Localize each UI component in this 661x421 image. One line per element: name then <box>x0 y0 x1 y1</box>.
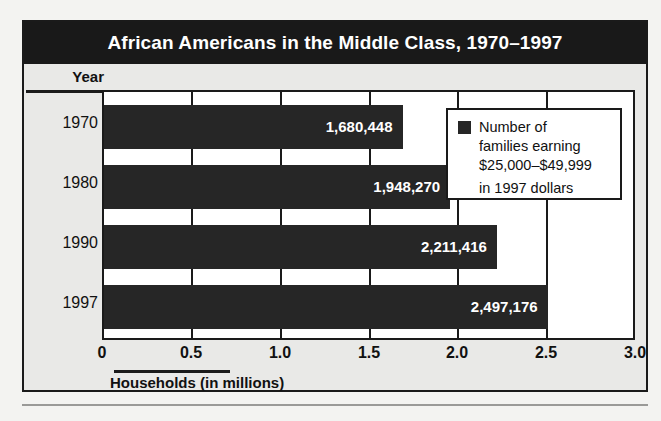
chart-figure: African Americans in the Middle Class, 1… <box>22 20 648 392</box>
xtick-1-5: 1.5 <box>349 344 389 362</box>
page-background: African Americans in the Middle Class, 1… <box>0 0 661 421</box>
chart-legend: Number of families earning $25,000–$49,9… <box>446 108 622 200</box>
chart-title-bar: African Americans in the Middle Class, 1… <box>24 22 646 64</box>
xtick-1-0: 1.0 <box>260 344 300 362</box>
bar-value-1997: 2,497,176 <box>471 285 538 329</box>
year-label-1997: 1997 <box>32 294 98 312</box>
chart-title: African Americans in the Middle Class, 1… <box>24 22 646 64</box>
year-label-1990: 1990 <box>32 234 98 252</box>
bar-value-1970: 1,680,448 <box>326 105 393 149</box>
year-label-1980: 1980 <box>32 174 98 192</box>
bar-1997: 2,497,176 <box>104 285 548 329</box>
xtick-2-0: 2.0 <box>437 344 477 362</box>
legend-entry: Number of <box>458 118 612 137</box>
year-column-header: Year <box>42 68 104 85</box>
bar-1970: 1,680,448 <box>104 105 403 149</box>
xtick-2-5: 2.5 <box>526 344 566 362</box>
bar-1980: 1,948,270 <box>104 165 450 209</box>
year-header-rule <box>26 90 104 93</box>
xtick-3-0: 3.0 <box>615 344 655 362</box>
bar-value-1990: 2,211,416 <box>421 225 487 269</box>
year-label-1970: 1970 <box>32 114 98 132</box>
legend-line-4: in 1997 dollars <box>479 179 612 198</box>
xtick-0-5: 0.5 <box>171 344 211 362</box>
legend-line-3: $25,000–$49,999 <box>479 156 612 175</box>
legend-swatch-icon <box>458 121 471 134</box>
legend-line-2: families earning <box>479 137 612 156</box>
xtick-0: 0 <box>82 344 122 362</box>
page-bottom-rule <box>22 404 648 406</box>
x-axis-label-rule <box>114 370 230 373</box>
bar-value-1980: 1,948,270 <box>373 165 440 209</box>
bar-1990: 2,211,416 <box>104 225 497 269</box>
legend-line-1: Number of <box>479 118 547 137</box>
x-axis-label: Households (in millions) <box>110 374 284 391</box>
